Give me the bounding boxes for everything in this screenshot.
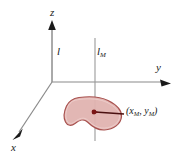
x-axis-line (19, 82, 52, 132)
diagram-svg (0, 0, 176, 162)
centroid-coordinate-label: (xM, yM) (126, 106, 157, 118)
y-axis-arrowhead (160, 79, 171, 86)
centroid-point-marker (92, 110, 97, 115)
line-l-m-label: lM (97, 46, 106, 59)
x-axis-label: x (11, 142, 16, 153)
line-l-label: l (57, 46, 60, 57)
y-axis-label: y (156, 62, 161, 73)
z-axis-label: z (50, 7, 54, 18)
point-close-paren: ) (154, 105, 157, 116)
x-axis-arrowhead (13, 129, 23, 141)
figure-canvas: z y x l lM (xM, yM) (0, 0, 176, 162)
z-axis-arrowhead (48, 20, 56, 30)
line-l-label-text: l (57, 45, 60, 57)
line-l-m-label-subscript: M (100, 51, 106, 59)
